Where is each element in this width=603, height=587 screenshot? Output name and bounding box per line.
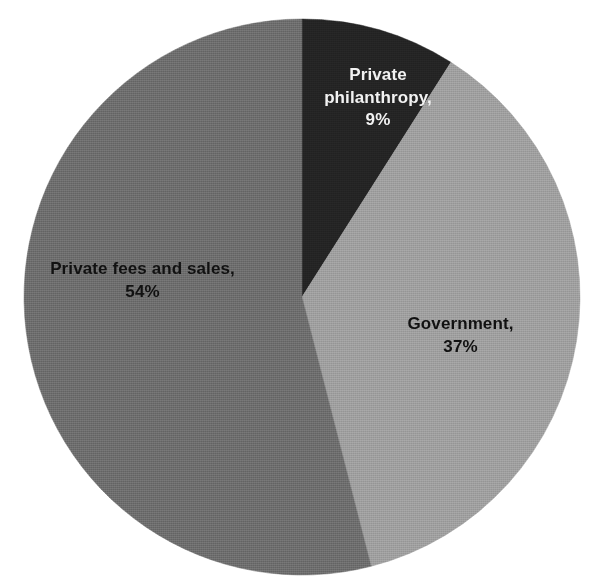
- pie-chart-figure: Private philanthropy, 9% Government, 37%…: [0, 0, 603, 587]
- chart-plot-area: Private philanthropy, 9% Government, 37%…: [0, 0, 603, 587]
- pie-chart-svg: [0, 0, 603, 587]
- pie-slices: [24, 19, 580, 575]
